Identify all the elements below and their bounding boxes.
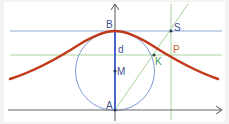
secant-line-A-S — [115, 4, 188, 110]
label-M: M — [117, 66, 125, 77]
diagram-frame: B d M A S P K — [0, 0, 229, 124]
label-S: S — [174, 22, 181, 33]
label-d: d — [118, 44, 124, 55]
label-P: P — [173, 44, 180, 55]
label-B: B — [106, 19, 113, 30]
witch-of-agnesi-diagram: B d M A S P K — [0, 0, 229, 124]
label-K: K — [155, 56, 162, 67]
point-S — [169, 29, 172, 32]
label-A: A — [106, 100, 113, 111]
point-A — [113, 108, 116, 111]
